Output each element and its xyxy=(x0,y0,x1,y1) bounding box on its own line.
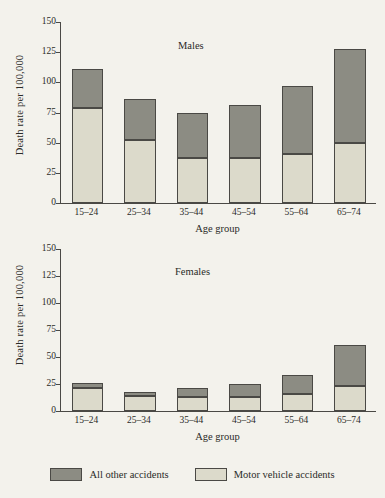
x-tick-label: 55–64 xyxy=(284,414,308,426)
y-axis-title-males: Death rate per 100,000 xyxy=(14,5,25,205)
x-tick-label: 65–74 xyxy=(337,206,361,218)
x-tick-label: 35–44 xyxy=(179,414,203,426)
y-tick-mark xyxy=(56,113,61,114)
x-axis-title-females: Age group xyxy=(60,431,375,442)
x-tick-label: 45–54 xyxy=(232,206,256,218)
bar-segment-all-other-accidents xyxy=(72,69,104,108)
x-axis-tick-labels-females: 15–2425–3435–4445–5455–6465–74 xyxy=(60,414,375,428)
bar-segment-all-other-accidents xyxy=(72,383,104,388)
bar-segment-all-other-accidents xyxy=(334,49,366,143)
x-tick-label: 45–54 xyxy=(232,414,256,426)
chart-panel-males: Death rate per 100,000 0255075100125150 … xyxy=(0,0,385,240)
bar-segment-motor-vehicle-accidents xyxy=(177,397,209,411)
y-tick-mark xyxy=(56,330,61,331)
x-tick-label: 65–74 xyxy=(337,414,361,426)
y-tick-label: 100 xyxy=(42,298,56,308)
y-tick-label: 25 xyxy=(47,379,57,389)
bar-segment-all-other-accidents xyxy=(177,113,209,159)
bar-segment-motor-vehicle-accidents xyxy=(229,397,261,411)
x-tick-label: 35–44 xyxy=(179,206,203,218)
bar-segment-motor-vehicle-accidents xyxy=(124,396,156,411)
x-axis-title-males: Age group xyxy=(60,223,375,234)
bar-segment-all-other-accidents xyxy=(282,86,314,154)
plot-area-females xyxy=(60,249,376,412)
bar-segment-motor-vehicle-accidents xyxy=(334,386,366,411)
bar-segment-motor-vehicle-accidents xyxy=(124,140,156,203)
legend-swatch-motor-vehicle-accidents xyxy=(195,468,227,481)
bar-55-64 xyxy=(282,375,314,411)
bar-segment-motor-vehicle-accidents xyxy=(72,108,104,203)
x-tick-label: 15–24 xyxy=(74,206,98,218)
bar-35-44 xyxy=(177,388,209,411)
bar-45-54 xyxy=(229,384,261,411)
bar-25-34 xyxy=(124,99,156,203)
y-tick-mark xyxy=(56,249,61,250)
y-tick-label: 75 xyxy=(47,108,57,118)
y-tick-label: 125 xyxy=(42,271,56,281)
bar-65-74 xyxy=(334,49,366,203)
y-tick-mark xyxy=(56,276,61,277)
bar-segment-all-other-accidents xyxy=(124,392,156,396)
y-tick-label: 125 xyxy=(42,47,56,57)
y-tick-mark xyxy=(56,203,61,204)
y-tick-mark xyxy=(56,357,61,358)
y-axis-title-females: Death rate per 100,000 xyxy=(14,215,25,415)
y-tick-mark xyxy=(56,52,61,53)
chart-legend: All other accidents Motor vehicle accide… xyxy=(0,463,385,485)
legend-label-all-other-accidents: All other accidents xyxy=(89,469,168,480)
x-tick-label: 15–24 xyxy=(74,414,98,426)
bar-segment-all-other-accidents xyxy=(229,384,261,397)
y-tick-label: 100 xyxy=(42,78,56,88)
bar-15-24 xyxy=(72,383,104,411)
accident-death-rate-figure: Death rate per 100,000 0255075100125150 … xyxy=(0,0,385,498)
bar-45-54 xyxy=(229,105,261,203)
y-tick-label: 150 xyxy=(42,244,56,254)
y-tick-mark xyxy=(56,173,61,174)
bar-segment-all-other-accidents xyxy=(177,388,209,397)
bar-segment-motor-vehicle-accidents xyxy=(282,394,314,411)
y-tick-label: 50 xyxy=(47,138,57,148)
legend-entry-all-other-accidents: All other accidents xyxy=(50,468,168,481)
x-tick-label: 25–34 xyxy=(127,414,151,426)
legend-label-motor-vehicle-accidents: Motor vehicle accidents xyxy=(234,469,335,480)
bar-segment-all-other-accidents xyxy=(334,345,366,386)
bar-segment-all-other-accidents xyxy=(282,375,314,393)
bar-segment-motor-vehicle-accidents xyxy=(334,143,366,203)
x-tick-label: 25–34 xyxy=(127,206,151,218)
legend-entry-motor-vehicle-accidents: Motor vehicle accidents xyxy=(195,468,335,481)
panel-title-females: Females xyxy=(175,266,210,277)
y-tick-label: 25 xyxy=(47,168,57,178)
bar-55-64 xyxy=(282,86,314,203)
bar-segment-motor-vehicle-accidents xyxy=(229,158,261,203)
bar-25-34 xyxy=(124,392,156,411)
chart-panel-females: Death rate per 100,000 0255075100125150 … xyxy=(0,240,385,455)
legend-swatch-all-other-accidents xyxy=(50,468,82,481)
x-tick-label: 55–64 xyxy=(284,206,308,218)
bar-segment-motor-vehicle-accidents xyxy=(177,158,209,203)
y-tick-label: 150 xyxy=(42,17,56,27)
x-axis-tick-labels-males: 15–2425–3435–4445–5455–6465–74 xyxy=(60,206,375,220)
bar-35-44 xyxy=(177,113,209,204)
bar-segment-all-other-accidents xyxy=(124,99,156,140)
y-tick-label: 75 xyxy=(47,325,57,335)
bar-segment-motor-vehicle-accidents xyxy=(72,388,104,411)
bar-15-24 xyxy=(72,69,104,203)
y-tick-label: 50 xyxy=(47,352,57,362)
panel-title-males: Males xyxy=(178,40,204,51)
y-tick-mark xyxy=(56,303,61,304)
y-tick-mark xyxy=(56,82,61,83)
bar-65-74 xyxy=(334,345,366,411)
bar-segment-motor-vehicle-accidents xyxy=(282,154,314,203)
y-tick-mark xyxy=(56,384,61,385)
y-tick-mark xyxy=(56,22,61,23)
plot-area-males xyxy=(60,22,376,204)
y-tick-mark xyxy=(56,411,61,412)
y-tick-mark xyxy=(56,143,61,144)
bar-segment-all-other-accidents xyxy=(229,105,261,158)
